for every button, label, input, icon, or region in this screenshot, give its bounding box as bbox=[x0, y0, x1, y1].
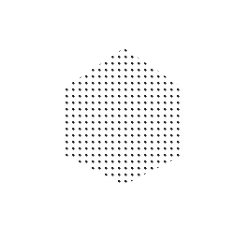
dotted-hexagon bbox=[64, 48, 183, 185]
artwork-canvas bbox=[0, 0, 249, 235]
